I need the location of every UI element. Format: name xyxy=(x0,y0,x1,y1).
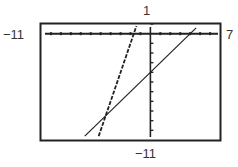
graph-plot xyxy=(0,0,238,167)
dashed-line xyxy=(99,26,137,136)
solid-line xyxy=(85,28,196,136)
graph-lines xyxy=(85,26,196,136)
